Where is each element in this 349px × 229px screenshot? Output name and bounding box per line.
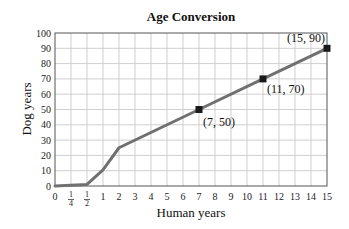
x-tick-label: 7 — [197, 191, 202, 202]
svg-text:1: 1 — [85, 190, 89, 199]
x-tick-label: 6 — [181, 191, 186, 202]
x-tick-label: 13 — [290, 191, 300, 202]
x-tick-label: 3 — [133, 191, 138, 202]
data-line — [55, 48, 327, 186]
y-tick-label: 60 — [41, 89, 51, 100]
y-tick-label: 70 — [41, 73, 51, 84]
x-tick-label: 0 — [53, 191, 58, 202]
x-tick-fraction: 12 — [84, 190, 90, 208]
y-tick-label: 80 — [41, 58, 51, 69]
svg-text:4: 4 — [69, 199, 73, 208]
x-tick-label: 11 — [258, 191, 268, 202]
x-tick-label: 9 — [229, 191, 234, 202]
data-point-label: (15, 90) — [287, 31, 325, 45]
x-tick-label: 2 — [117, 191, 122, 202]
data-point-marker — [324, 45, 331, 52]
y-tick-label: 40 — [41, 119, 51, 130]
chart-title: Age Conversion — [147, 9, 236, 24]
y-tick-label: 10 — [41, 165, 51, 176]
x-tick-fraction: 14 — [68, 190, 74, 208]
x-axis-label: Human years — [157, 205, 226, 220]
age-conversion-chart: Age Conversion 0102030405060708090100 01… — [0, 0, 349, 229]
svg-text:2: 2 — [85, 199, 89, 208]
x-tick-label: 12 — [274, 191, 284, 202]
data-point-label: (11, 70) — [267, 82, 305, 96]
x-tick-label: 14 — [306, 191, 316, 202]
y-tick-label: 50 — [41, 104, 51, 115]
x-tick-label: 5 — [165, 191, 170, 202]
y-tick-label: 100 — [36, 28, 51, 39]
data-point-marker — [260, 75, 267, 82]
x-tick-label: 8 — [213, 191, 218, 202]
y-tick-label: 30 — [41, 135, 51, 146]
y-axis-ticks: 0102030405060708090100 — [36, 28, 51, 192]
y-tick-label: 0 — [46, 181, 51, 192]
x-tick-label: 10 — [242, 191, 252, 202]
x-tick-label: 1 — [101, 191, 106, 202]
grid-lines — [55, 33, 327, 186]
data-point-label: (7, 50) — [203, 115, 235, 129]
y-axis-label: Dog years — [19, 82, 34, 135]
y-tick-label: 20 — [41, 150, 51, 161]
x-tick-label: 4 — [149, 191, 154, 202]
data-point-marker — [196, 106, 203, 113]
y-tick-label: 90 — [41, 43, 51, 54]
x-tick-label: 15 — [322, 191, 332, 202]
svg-text:1: 1 — [69, 190, 73, 199]
